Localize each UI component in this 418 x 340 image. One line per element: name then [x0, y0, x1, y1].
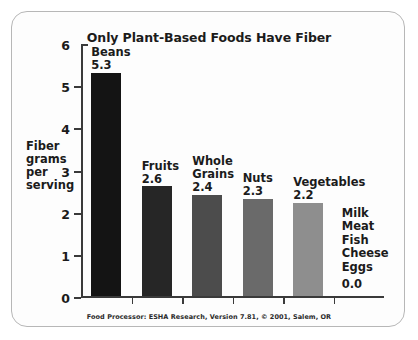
y-tick-label: 3	[61, 164, 70, 179]
no-fiber-item: Fish	[342, 234, 389, 248]
bar-label-line: Beans	[91, 46, 130, 59]
bar-value-label: 2.6	[142, 173, 179, 186]
no-fiber-label-group: MilkMeatFishCheeseEggs0.0	[342, 207, 389, 292]
no-fiber-item: Cheese	[342, 247, 389, 261]
x-tick-mark	[132, 298, 134, 304]
bar-label: WholeGrains2.4	[192, 155, 234, 194]
y-tick-mark	[74, 86, 81, 88]
bar-value-label: 2.2	[293, 189, 365, 202]
x-tick-mark	[334, 298, 336, 304]
bar-label: Vegetables2.2	[293, 176, 365, 202]
bar	[91, 73, 121, 296]
y-tick-label: 4	[61, 122, 70, 137]
bar	[243, 199, 273, 296]
bar-value-label: 2.4	[192, 181, 234, 194]
no-fiber-item: Meat	[342, 220, 389, 234]
y-tick-label: 1	[61, 248, 70, 263]
bar-value-label: 5.3	[91, 59, 130, 72]
y-axis-title: Fiber grams per serving	[26, 140, 78, 192]
y-tick-mark	[74, 213, 81, 215]
bar	[142, 186, 172, 296]
chart-card: Only Plant-Based Foods Have Fiber Fiber …	[11, 11, 405, 327]
y-tick-label: 2	[61, 206, 70, 221]
bar-label: Beans5.3	[91, 46, 130, 72]
no-fiber-value-label: 0.0	[342, 278, 389, 292]
bar-rect	[91, 73, 121, 296]
y-tick-mark	[74, 255, 81, 257]
bar-rect	[142, 186, 172, 296]
y-axis-title-line: serving	[26, 179, 78, 192]
no-fiber-item: Eggs	[342, 261, 389, 275]
bar-value-label: 2.3	[243, 185, 273, 198]
bar	[293, 203, 323, 296]
y-tick-mark	[74, 171, 81, 173]
bar-label-line: Fruits	[142, 160, 179, 173]
y-tick-label: 6	[61, 38, 70, 53]
y-tick-mark	[81, 44, 88, 46]
bar-rect	[192, 195, 222, 296]
no-fiber-item: Milk	[342, 207, 389, 221]
y-tick-label: 0	[61, 291, 70, 306]
source-note: Food Processor: ESHA Research, Version 7…	[12, 313, 406, 321]
y-axis-line	[81, 45, 83, 298]
y-tick-label: 5	[61, 80, 70, 95]
bar	[192, 195, 222, 296]
x-tick-mark	[283, 298, 285, 304]
bar-label: Fruits2.6	[142, 160, 179, 186]
bar-label: Nuts2.3	[243, 172, 273, 198]
bar-label-line: Grains	[192, 168, 234, 181]
bar-rect	[293, 203, 323, 296]
y-tick-mark	[74, 297, 81, 299]
bar-rect	[243, 199, 273, 296]
x-tick-mark	[182, 298, 184, 304]
chart-title: Only Plant-Based Foods Have Fiber	[12, 30, 406, 45]
x-tick-mark	[233, 298, 235, 304]
plot-area: 6543210 Beans5.3Fruits2.6WholeGrains2.4N…	[81, 45, 384, 298]
y-tick-mark	[74, 128, 81, 130]
